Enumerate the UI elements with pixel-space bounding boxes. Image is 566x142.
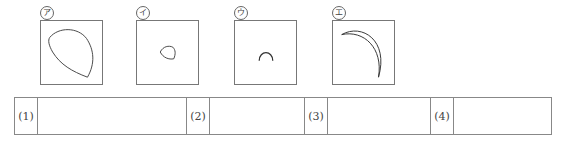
figure-label: ウ [234, 6, 248, 20]
figure-box [136, 20, 199, 85]
lens-small-shape [137, 21, 198, 84]
figure-box [234, 20, 297, 85]
figure-e: エ [332, 6, 398, 88]
figure-label: イ [136, 6, 150, 20]
question-number: (1) [15, 98, 38, 134]
arc-small-shape [235, 21, 296, 84]
figure-u: ウ [234, 6, 300, 88]
answer-field-1[interactable] [38, 98, 187, 134]
lens-large-shape [41, 21, 102, 84]
question-number: (3) [305, 98, 328, 134]
question-number: (4) [431, 98, 454, 134]
answer-field-3[interactable] [328, 98, 431, 134]
figure-a: ア [40, 6, 106, 88]
figure-box [332, 20, 395, 85]
figure-label: エ [332, 6, 346, 20]
answer-table: (1) (2) (3) (4) [14, 97, 552, 135]
answer-field-2[interactable] [210, 98, 305, 134]
answer-field-4[interactable] [454, 98, 551, 134]
figure-i: イ [136, 6, 202, 88]
figure-label: ア [40, 6, 54, 20]
question-number: (2) [187, 98, 210, 134]
figure-box [40, 20, 103, 85]
crescent-shape [333, 21, 394, 84]
